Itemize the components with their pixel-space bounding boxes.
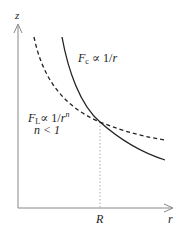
x-tick-label-r: R bbox=[96, 213, 103, 225]
central-force-relation: ∝ 1/ bbox=[89, 51, 112, 65]
central-force-label: Fc ∝ 1/r bbox=[78, 52, 117, 68]
x-axis-label: r bbox=[168, 213, 173, 225]
central-force-variable: r bbox=[112, 51, 117, 65]
y-axis-label: z bbox=[15, 9, 19, 21]
local-force-condition: n < 1 bbox=[34, 124, 60, 136]
local-force-exponent: n bbox=[65, 110, 69, 119]
